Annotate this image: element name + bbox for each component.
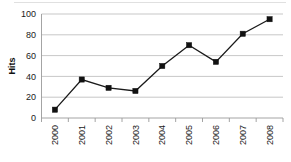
x-tick-label-2007: 2007 — [238, 125, 248, 145]
x-tick-label-2006: 2006 — [211, 125, 221, 145]
x-tick-label-2002: 2002 — [104, 125, 114, 145]
data-point-2008 — [267, 17, 272, 22]
data-point-2005 — [186, 43, 191, 48]
data-point-2004 — [160, 63, 165, 68]
x-tick-label-2008: 2008 — [265, 125, 275, 145]
y-axis-title: Hits — [7, 57, 17, 74]
y-tick-label: 100 — [21, 9, 36, 19]
data-point-2007 — [240, 31, 245, 36]
y-tick-label: 80 — [26, 30, 36, 40]
x-tick-label-2005: 2005 — [184, 125, 194, 145]
y-tick-label: 40 — [26, 72, 36, 82]
x-tick-label-2004: 2004 — [157, 125, 167, 145]
chart-canvas: 020406080100 200020012002200320042005200… — [0, 0, 291, 162]
x-tick-label-2001: 2001 — [77, 125, 87, 145]
x-tick-label-2003: 2003 — [131, 125, 141, 145]
data-point-2000 — [52, 107, 57, 112]
x-tick-label-2000: 2000 — [50, 125, 60, 145]
data-point-2001 — [79, 77, 84, 82]
line-chart: 020406080100 200020012002200320042005200… — [0, 0, 291, 162]
data-point-2003 — [133, 88, 138, 93]
data-point-2002 — [106, 85, 111, 90]
x-tick-labels: 200020012002200320042005200620072008 — [50, 125, 275, 145]
y-tick-label: 60 — [26, 51, 36, 61]
y-tick-label: 20 — [26, 92, 36, 102]
y-tick-label: 0 — [31, 113, 36, 123]
data-point-2006 — [213, 59, 218, 64]
